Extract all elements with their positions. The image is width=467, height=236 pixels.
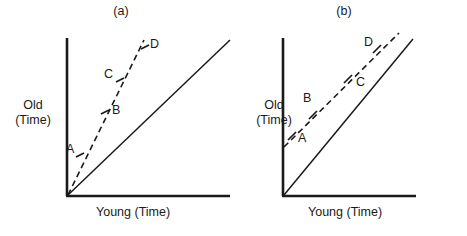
panel-b-y-axis-label-line1: Old	[243, 98, 305, 113]
panel-b-point-label-d: D	[364, 36, 373, 49]
panel-b-x-axis-label: Young (Time)	[308, 205, 382, 219]
panel-a-point-c-tick	[116, 78, 124, 82]
panel-a-point-label-b: B	[112, 104, 120, 117]
panel-a: (a) A B C D Old (Time) Young (T	[0, 0, 234, 236]
panel-a-point-d-tick	[141, 45, 149, 49]
panel-a-point-label-c: C	[104, 68, 113, 81]
panel-a-y-axis-label: Old (Time)	[2, 98, 64, 128]
panel-b-dashed-line	[284, 33, 399, 147]
figure-root: (a) A B C D Old (Time) Young (T	[0, 0, 467, 236]
panel-a-point-a-tick	[76, 153, 84, 157]
panel-a-y-axis-label-line1: Old	[2, 98, 64, 113]
panel-a-dashed-line	[68, 40, 144, 195]
panel-b-y-axis-label-line2: (Time)	[243, 113, 305, 128]
panel-a-point-label-a: A	[66, 143, 74, 156]
panel-a-x-axis-label: Young (Time)	[96, 205, 170, 219]
panel-a-y-axis-label-line2: (Time)	[2, 113, 64, 128]
panel-b-point-label-c: C	[356, 76, 365, 89]
panel-a-identity-line	[68, 40, 230, 195]
panel-b-point-label-a: A	[298, 132, 306, 145]
panel-a-data-ticks	[76, 45, 149, 157]
panel-b-y-axis-label: Old (Time)	[243, 98, 305, 128]
panel-b: (b) A B C D Old (Time) Young (T	[233, 0, 467, 236]
panel-a-point-label-d: D	[150, 38, 159, 51]
